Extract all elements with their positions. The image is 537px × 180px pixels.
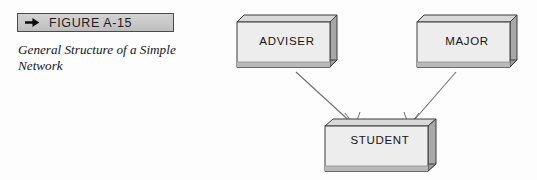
entity-label-major: MAJOR [421, 35, 513, 47]
entity-label-student: STUDENT [330, 134, 430, 146]
connector-major-student [404, 72, 456, 126]
entity-label-adviser: ADVISER [241, 35, 333, 47]
network-diagram [0, 0, 537, 180]
connector-adviser-student [296, 72, 360, 126]
figure-page: FIGURE A-15 General Structure of a Simpl… [0, 0, 537, 180]
